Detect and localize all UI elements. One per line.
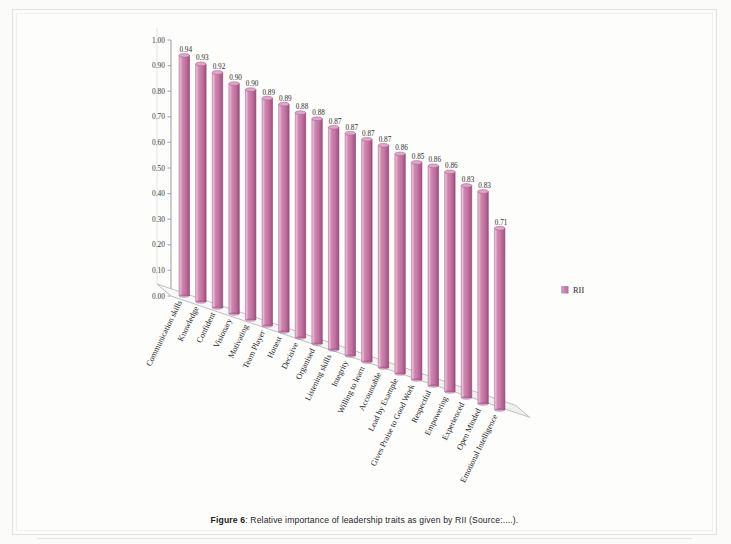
- bar-column: [494, 226, 505, 411]
- bar-column: [345, 131, 356, 357]
- bar-value-label: 0.86: [445, 162, 458, 170]
- bar-column: [312, 117, 323, 346]
- category-axis-label: Integrity: [330, 358, 351, 388]
- bar-column: [245, 88, 256, 322]
- bar-column: [212, 71, 223, 310]
- figure-caption-text: Relative importance of leadership traits…: [250, 515, 518, 525]
- bar-value-label: 0.86: [428, 156, 441, 164]
- y-axis-tick-label: 0.00: [152, 292, 165, 301]
- bar-column: [461, 184, 472, 400]
- bar-value-label: 0.87: [362, 130, 375, 138]
- bar-column: [279, 102, 290, 333]
- y-axis-tick-label: 1.00: [152, 36, 165, 45]
- bar-value-label: 0.88: [296, 103, 309, 111]
- bar-value-label: 0.87: [379, 136, 392, 144]
- category-axis-label: Emotional Intelligence: [459, 413, 500, 485]
- figure-caption-label: Figure 6: [211, 515, 246, 525]
- bar-value-label: 0.83: [462, 176, 475, 184]
- bar-value-label: 0.90: [246, 80, 259, 88]
- y-axis-tick-label: 0.70: [152, 112, 165, 121]
- y-axis-tick-label: 0.40: [152, 189, 165, 198]
- bar-column: [179, 53, 190, 297]
- category-axis-label: Honest: [265, 334, 284, 359]
- bar-column: [378, 143, 389, 369]
- bar-column: [395, 152, 406, 376]
- y-axis-tick-label: 0.90: [152, 61, 165, 70]
- bar-series-rii: [179, 53, 505, 411]
- bar-chart-3d: 0.000.100.200.300.400.500.600.700.800.90…: [13, 10, 716, 510]
- bar-value-label: 0.89: [262, 89, 275, 97]
- bar-column: [411, 161, 422, 382]
- bar-value-label: 0.85: [412, 153, 425, 161]
- bar-value-label: 0.87: [345, 124, 358, 132]
- y-axis-tick-label: 0.30: [152, 215, 165, 224]
- legend-label: RII: [573, 286, 584, 295]
- y-axis-tick-label: 0.80: [152, 87, 165, 96]
- bar-value-label: 0.94: [179, 46, 192, 54]
- y-axis: 0.000.100.200.300.400.500.600.700.800.90…: [152, 28, 171, 301]
- bar-column: [262, 96, 273, 327]
- bar-value-label: 0.88: [312, 109, 325, 117]
- y-axis-tick-label: 0.50: [152, 164, 165, 173]
- y-axis-tick-label: 0.20: [152, 240, 165, 249]
- chart-figure: 0.000.100.200.300.400.500.600.700.800.90…: [13, 10, 716, 510]
- bar-column: [362, 137, 373, 363]
- bar-column: [196, 62, 207, 304]
- caption-divider: [37, 538, 692, 539]
- legend-swatch: [561, 286, 569, 294]
- bar-column: [229, 82, 240, 316]
- bar-column: [328, 125, 339, 351]
- y-axis-tick-label: 0.10: [152, 266, 165, 275]
- chart-legend: RII: [561, 286, 584, 295]
- bar-value-label: 0.93: [196, 54, 209, 62]
- bar-value-label: 0.71: [495, 219, 508, 227]
- bar-value-label: 0.90: [229, 74, 242, 82]
- bar-column: [428, 164, 439, 388]
- bar-value-label: 0.86: [395, 144, 408, 152]
- bar-value-label: 0.83: [478, 182, 491, 190]
- category-axis-label: Decisive: [280, 341, 301, 371]
- bar-column: [445, 170, 456, 394]
- y-axis-tick-label: 0.60: [152, 138, 165, 147]
- bar-value-label: 0.89: [279, 95, 292, 103]
- bar-column: [478, 190, 489, 406]
- page-background: 0.000.100.200.300.400.500.600.700.800.90…: [0, 0, 731, 544]
- scanned-page: 0.000.100.200.300.400.500.600.700.800.90…: [12, 9, 717, 535]
- bar-value-label: 0.87: [329, 118, 342, 126]
- figure-caption: Figure 6: Relative importance of leaders…: [13, 515, 716, 525]
- bar-value-label: 0.92: [213, 63, 226, 71]
- bar-column: [295, 111, 306, 340]
